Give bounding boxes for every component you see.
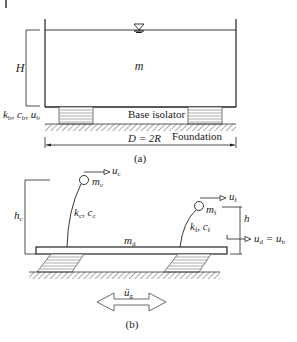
height-dimension [26, 30, 40, 106]
convective-params-label: kc, cc [74, 206, 96, 220]
mass-label: m [135, 59, 144, 73]
flexible-mass-icon [195, 202, 204, 211]
figure-a: H m kb, cb, ub Base isolator [3, 0, 236, 165]
flexible-disp-label: uf [229, 190, 238, 204]
height-label: H [15, 61, 26, 75]
deck-disp-label: ud = ub [254, 232, 285, 246]
foundation-label: Foundation [172, 130, 223, 142]
convective-disp-label: uc [112, 164, 121, 178]
figure-b: hc uc mc kc, cc uf mf [14, 164, 285, 331]
convective-disp-arrow [84, 170, 110, 175]
flexible-mass-label: mf [206, 203, 217, 217]
convective-mass-icon [80, 176, 89, 185]
convective-height-dimension [25, 180, 50, 254]
isolator-pad-right [188, 107, 222, 124]
caption-b: (b) [126, 318, 139, 331]
caption-a: (a) [134, 152, 147, 165]
diameter-label: D = 2R [127, 132, 161, 144]
deck-disp-arrow [227, 235, 251, 242]
convective-mass-label: mc [92, 175, 103, 189]
isolator-right-deformed [164, 254, 211, 272]
isolator-params-label: kb, cb, ub [3, 108, 40, 122]
flexible-disp-arrow [200, 196, 226, 201]
isolator-pad-left [59, 107, 93, 124]
free-surface-icon [134, 24, 144, 33]
convective-height-label: hc [14, 209, 23, 223]
deck-mass-label: md [124, 234, 136, 248]
flexible-height-label: h [244, 212, 250, 224]
deck-plate [36, 247, 227, 254]
flexible-params-label: kf, cf [190, 220, 211, 234]
diagram-canvas: H m kb, cb, ub Base isolator [0, 0, 297, 342]
base-isolator-label: Base isolator [128, 108, 185, 120]
isolator-left-deformed [37, 254, 84, 272]
ground-accel-label: üg [124, 286, 134, 300]
ground-hatch [29, 272, 220, 279]
